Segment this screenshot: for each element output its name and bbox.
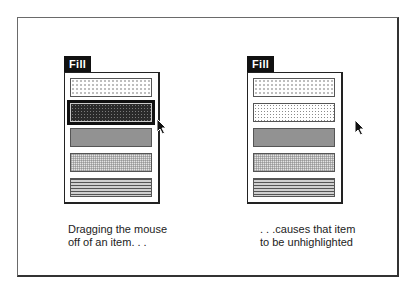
menu-item-fill-light[interactable] [250,75,338,100]
fill-pattern-swatch [70,153,152,172]
fill-pattern-swatch [253,153,335,172]
fill-pattern-swatch [253,103,335,122]
mouse-pointer-icon [354,119,366,136]
fill-menu-title[interactable]: Fill [64,56,91,72]
fill-pattern-swatch [253,178,335,197]
fill-pattern-swatch [70,78,152,97]
fill-menu [64,72,160,204]
menu-item-fill-medium[interactable] [250,125,338,150]
menu-item-fill-grid[interactable] [250,150,338,175]
fill-menu [247,72,343,204]
menu-item-fill-lines[interactable] [67,175,155,200]
fill-pattern-swatch [253,78,335,97]
menu-item-fill-dark-highlighted[interactable] [67,100,155,125]
menu-item-fill-grid[interactable] [67,150,155,175]
fill-menu-title[interactable]: Fill [247,56,274,72]
right-caption-line1: . . .causes that item [260,223,355,236]
menu-item-fill-lines[interactable] [250,175,338,200]
menu-item-fill-light[interactable] [67,75,155,100]
fill-pattern-swatch [253,128,335,147]
fill-pattern-swatch [70,128,152,147]
menu-item-fill-dotted[interactable] [250,100,338,125]
menu-item-fill-medium[interactable] [67,125,155,150]
left-caption-line2: off of an item. . . [68,236,147,249]
illustration-frame: Fill Dragging the mouse off of an item. … [17,17,399,277]
fill-pattern-swatch [70,103,152,122]
right-caption-line2: to be unhighlighted [260,236,353,249]
fill-pattern-swatch [70,178,152,197]
left-caption-line1: Dragging the mouse [68,223,167,236]
mouse-pointer-icon [156,118,168,135]
